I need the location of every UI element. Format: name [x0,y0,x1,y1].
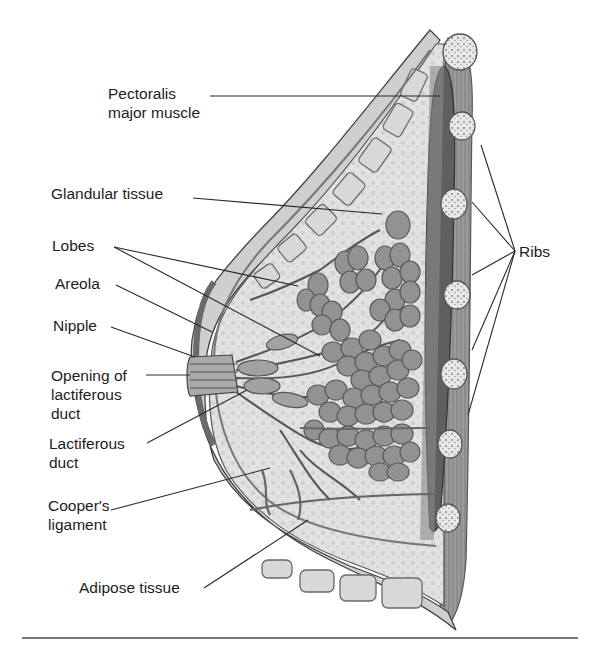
label-line: Lactiferous [49,434,125,453]
label-adipose-tissue: Adipose tissue [79,578,180,597]
rib-4 [444,281,470,309]
label-coopers-ligament: Cooper's ligament [48,496,110,534]
label-areola: Areola [55,274,100,293]
label-line: major muscle [108,103,200,122]
label-line: Ribs [519,242,550,261]
label-ribs: Ribs [519,242,550,261]
breast-anatomy-figure: Pectoralis major muscle Glandular tissue… [0,0,591,649]
rib-7 [436,504,460,532]
label-line: ligament [48,515,110,534]
label-line: Cooper's [48,496,110,515]
label-line: Adipose tissue [79,578,180,597]
label-opening-of-lactiferous-duct: Opening of lactiferous duct [51,366,127,423]
rib-5 [441,359,467,389]
rib-6 [438,430,462,458]
rib-2 [449,112,475,140]
label-nipple: Nipple [53,316,97,335]
label-line: duct [49,453,125,472]
label-line: Lobes [52,236,94,255]
label-glandular-tissue: Glandular tissue [51,184,163,203]
label-line: Opening of [51,366,127,385]
label-line: Glandular tissue [51,184,163,203]
label-line: lactiferous [51,385,127,404]
label-lobes: Lobes [52,236,94,255]
label-line: Areola [55,274,100,293]
rib-1 [443,34,477,70]
label-line: Pectoralis [108,84,200,103]
label-line: Nipple [53,316,97,335]
label-line: duct [51,404,127,423]
label-pectoralis-major-muscle: Pectoralis major muscle [108,84,200,122]
label-lactiferous-duct: Lactiferous duct [49,434,125,472]
rib-3 [441,189,467,219]
